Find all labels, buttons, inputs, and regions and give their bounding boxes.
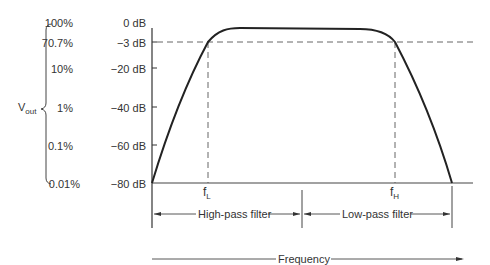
fl-sub: L — [206, 192, 210, 201]
arrow-right-icon — [293, 212, 300, 216]
vout-brace — [41, 24, 52, 184]
fl-label: fL — [203, 186, 211, 200]
fh-sub: H — [393, 192, 399, 201]
frequency-axis-label: Frequency — [278, 253, 330, 265]
low-pass-filter-label: Low-pass filter — [342, 208, 413, 220]
response-curve — [152, 28, 452, 183]
arrow-left-icon — [304, 212, 311, 216]
fh-label: fH — [390, 186, 399, 200]
bandpass-diagram — [0, 0, 490, 265]
arrow-left-icon — [154, 212, 161, 216]
frequency-arrow-icon — [456, 257, 464, 261]
high-pass-filter-label: High-pass filter — [198, 208, 271, 220]
arrow-right-icon — [443, 212, 450, 216]
